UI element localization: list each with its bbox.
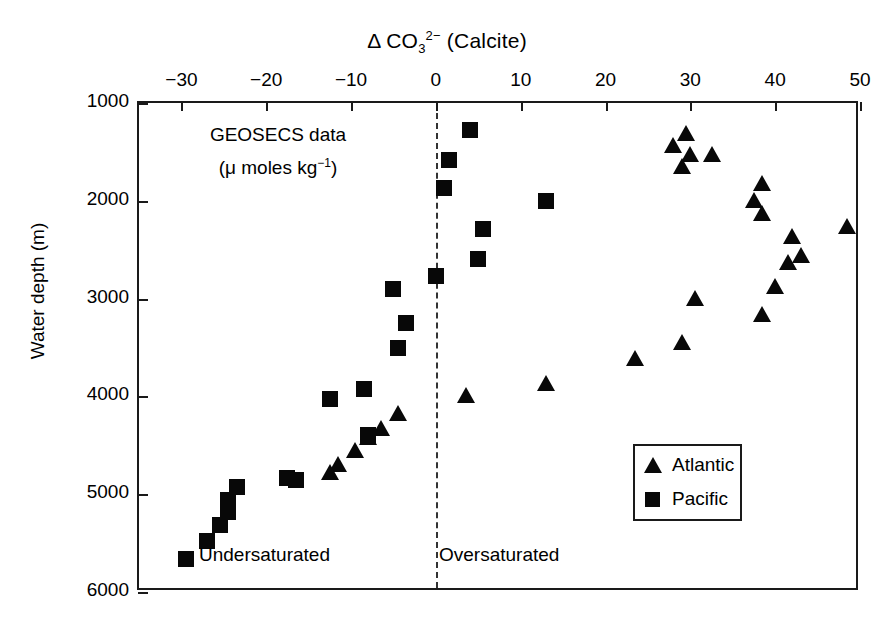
- chart-title: Δ CO32− (Calcite): [0, 28, 894, 56]
- data-point-pacific: [220, 504, 236, 520]
- data-point-pacific: [229, 479, 245, 495]
- y-axis-tick: [138, 494, 148, 496]
- data-point-pacific: [538, 193, 554, 209]
- y-axis-tick-label: 4000: [61, 383, 129, 405]
- y-axis-tick-label: 6000: [61, 579, 129, 601]
- saturation-horizon-line: [436, 103, 438, 588]
- data-point-atlantic: [673, 334, 691, 350]
- data-point-pacific: [212, 517, 228, 533]
- plot-inner: −30−20−1001020304050 1000200030004000500…: [139, 103, 856, 588]
- data-point-atlantic: [753, 306, 771, 322]
- y-axis-tick: [138, 396, 148, 398]
- x-axis-tick-label: 40: [745, 69, 805, 91]
- data-point-pacific: [436, 180, 452, 196]
- data-point-pacific: [220, 492, 236, 508]
- data-point-pacific: [178, 551, 194, 567]
- square-marker-icon: [645, 492, 660, 507]
- x-axis-tick: [860, 102, 862, 111]
- geosecs-units-paren: ): [331, 157, 337, 178]
- data-point-atlantic: [372, 420, 390, 436]
- data-point-atlantic: [686, 290, 704, 306]
- data-point-atlantic: [457, 387, 475, 403]
- data-point-atlantic: [703, 146, 721, 162]
- y-axis-tick: [138, 299, 148, 301]
- x-axis-tick-label: 50: [830, 69, 890, 91]
- data-point-pacific: [441, 152, 457, 168]
- data-point-pacific: [475, 221, 491, 237]
- legend-item-pacific[interactable]: Pacific: [644, 488, 728, 510]
- geosecs-units-text: (μ moles kg: [219, 157, 318, 178]
- data-point-atlantic: [677, 125, 695, 141]
- legend-label-atlantic: Atlantic: [672, 454, 734, 476]
- data-point-pacific: [360, 427, 376, 443]
- oversaturated-label: Oversaturated: [439, 544, 559, 566]
- x-axis-tick-label: 10: [491, 69, 551, 91]
- data-point-atlantic: [779, 254, 797, 270]
- geosecs-annotation-line1: GEOSECS data: [163, 121, 393, 149]
- data-point-atlantic: [792, 247, 810, 263]
- data-point-pacific: [356, 381, 372, 397]
- legend-item-atlantic[interactable]: Atlantic: [644, 454, 734, 476]
- data-point-pacific: [288, 472, 304, 488]
- data-point-atlantic: [329, 456, 347, 472]
- data-point-atlantic: [753, 175, 771, 191]
- plot-area: −30−20−1001020304050 1000200030004000500…: [137, 101, 858, 590]
- x-axis-tick-label: 30: [660, 69, 720, 91]
- data-point-atlantic: [664, 137, 682, 153]
- x-axis-tick-label: 20: [576, 69, 636, 91]
- geosecs-units-exponent: −1: [317, 156, 331, 170]
- y-axis-tick: [138, 592, 148, 594]
- legend-label-pacific: Pacific: [672, 488, 728, 510]
- y-axis-tick: [138, 103, 148, 105]
- data-point-atlantic: [783, 228, 801, 244]
- data-point-atlantic: [745, 192, 763, 208]
- data-point-atlantic: [766, 278, 784, 294]
- y-axis-tick-label: 2000: [61, 188, 129, 210]
- data-point-pacific: [385, 281, 401, 297]
- chart-title-delta: Δ CO: [367, 29, 418, 52]
- data-point-atlantic: [753, 205, 771, 221]
- data-point-atlantic: [359, 429, 377, 445]
- y-axis-label: Water depth (m): [27, 161, 49, 421]
- legend-box: Atlantic Pacific: [633, 444, 742, 521]
- data-point-pacific: [398, 315, 414, 331]
- x-axis-tick: [351, 102, 353, 111]
- y-axis-tick-label: 1000: [61, 90, 129, 112]
- data-point-atlantic: [537, 375, 555, 391]
- chart-title-tail: (Calcite): [441, 29, 527, 52]
- undersaturated-label: Undersaturated: [199, 544, 330, 566]
- x-axis-tick-label: −30: [151, 69, 211, 91]
- chart-title-subscript: 3: [418, 41, 425, 56]
- data-point-atlantic: [321, 464, 339, 480]
- x-axis-tick: [690, 102, 692, 111]
- x-axis-tick: [436, 102, 438, 111]
- y-axis-tick: [138, 201, 148, 203]
- x-axis-tick: [266, 102, 268, 111]
- x-axis-tick: [606, 102, 608, 111]
- geosecs-annotation: GEOSECS data (μ moles kg−1): [163, 121, 393, 182]
- data-point-pacific: [279, 470, 295, 486]
- x-axis-tick-label: −20: [236, 69, 296, 91]
- x-axis-tick-label: 0: [406, 69, 466, 91]
- y-axis-tick-label: 5000: [61, 481, 129, 503]
- data-point-pacific: [390, 340, 406, 356]
- data-point-atlantic: [346, 442, 364, 458]
- data-point-pacific: [470, 251, 486, 267]
- x-axis-tick: [775, 102, 777, 111]
- triangle-marker-icon: [644, 457, 662, 473]
- data-point-atlantic: [389, 405, 407, 421]
- geosecs-annotation-line2: (μ moles kg−1): [163, 149, 393, 182]
- data-point-atlantic: [681, 146, 699, 162]
- data-point-atlantic: [626, 350, 644, 366]
- x-axis-tick: [181, 102, 183, 111]
- data-point-pacific: [462, 122, 478, 138]
- chart-title-superscript: 2−: [426, 28, 441, 43]
- x-axis-tick-label: −10: [321, 69, 381, 91]
- figure-root: Δ CO32− (Calcite) Water depth (m) −30−20…: [0, 0, 894, 624]
- data-point-atlantic: [673, 158, 691, 174]
- data-point-pacific: [322, 391, 338, 407]
- x-axis-tick: [521, 102, 523, 111]
- y-axis-tick-label: 3000: [61, 286, 129, 308]
- data-point-atlantic: [838, 218, 856, 234]
